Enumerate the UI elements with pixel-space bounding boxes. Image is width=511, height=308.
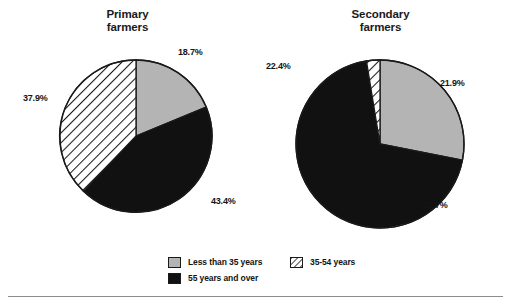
chart-title-secondary-line2: farmers: [250, 21, 511, 34]
pct-label-primary-less-than-35: 18.7%: [178, 47, 203, 57]
legend-item-55-and-over: 55 years and over: [168, 270, 258, 286]
legend-item-35-54: 35-54 years: [290, 254, 355, 270]
pie-secondary-slice-less-than-35: [380, 60, 464, 160]
legend-label-less-than-35: Less than 35 years: [188, 257, 262, 268]
pie-chart-figure: Primary farmers 18.7%: [0, 0, 511, 308]
legend-row-2: 55 years and over: [168, 270, 418, 286]
pct-label-primary-55-and-over: 43.4%: [211, 196, 236, 206]
pie-primary-farmers: [58, 56, 214, 216]
pct-label-primary-35-54: 37.9%: [23, 93, 48, 103]
chart-title-primary-line1: Primary: [106, 8, 148, 20]
chart-title-secondary-line1: Secondary: [352, 8, 410, 20]
pct-label-secondary-less-than-35: 21.9%: [440, 78, 465, 88]
bottom-divider: [8, 296, 503, 297]
legend-swatch-solid-icon: [168, 273, 181, 284]
pct-label-secondary-55-and-over: 55.7%: [423, 200, 448, 210]
legend-item-less-than-35: Less than 35 years: [168, 254, 262, 270]
chart-title-secondary: Secondary farmers: [250, 8, 511, 34]
legend-label-55-and-over: 55 years and over: [188, 273, 258, 284]
pct-label-secondary-35-54: 22.4%: [266, 61, 291, 71]
legend-label-35-54: 35-54 years: [310, 257, 355, 268]
chart-legend: Less than 35 years 35-54 years: [168, 254, 418, 286]
chart-title-primary-line2: farmers: [0, 21, 255, 34]
legend-swatch-gray-icon: [168, 257, 181, 268]
pie-primary-svg: [58, 56, 214, 216]
legend-row-1: Less than 35 years 35-54 years: [168, 254, 418, 270]
chart-title-primary: Primary farmers: [0, 8, 255, 34]
legend-swatch-hatched-icon: [290, 257, 303, 268]
